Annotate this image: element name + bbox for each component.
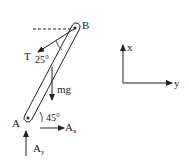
label-a: A: [12, 117, 20, 129]
pin-a: [27, 117, 30, 120]
label-y-axis: y: [174, 77, 180, 89]
label-angle-45: 45°: [46, 112, 60, 123]
label-t: T: [24, 50, 31, 62]
label-angle-25: 25°: [35, 54, 49, 65]
label-ax: Ax: [65, 121, 77, 135]
tension-arrow: [38, 29, 74, 52]
free-body-diagram: B T 25° mg A 45° Ax Ay x y: [0, 0, 189, 161]
label-ay: Ay: [33, 142, 45, 156]
angle-arc-45: [40, 112, 42, 122]
label-b: B: [82, 19, 89, 31]
label-x-axis: x: [127, 41, 133, 53]
angle-arc-25: [56, 41, 62, 50]
label-mg: mg: [57, 83, 72, 95]
